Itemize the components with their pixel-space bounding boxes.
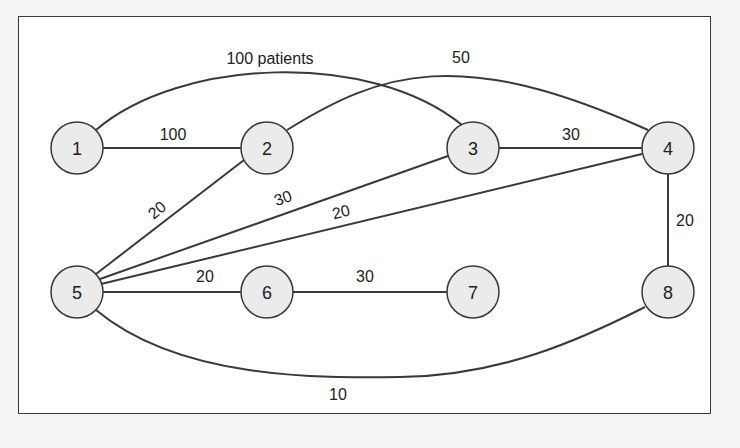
node-label-2: 2 bbox=[262, 139, 272, 159]
edge-label-5-3: 30 bbox=[272, 187, 295, 209]
node-1: 1 bbox=[51, 122, 103, 174]
edge-label-5-8: 10 bbox=[329, 386, 347, 403]
edge-5-4 bbox=[101, 154, 642, 284]
patient-flow-network: 100 patients 50 100 30 20 30 20 20 30 20… bbox=[0, 0, 740, 448]
edge-label-6-7: 30 bbox=[356, 268, 374, 285]
edge-label-5-4: 20 bbox=[330, 202, 351, 223]
edge-1-3 bbox=[96, 72, 462, 130]
edge-label-5-2: 20 bbox=[145, 198, 170, 223]
node-label-8: 8 bbox=[663, 283, 673, 303]
node-3: 3 bbox=[447, 122, 499, 174]
node-label-4: 4 bbox=[663, 139, 673, 159]
edge-5-8 bbox=[96, 307, 645, 377]
node-label-1: 1 bbox=[72, 139, 82, 159]
edge-label-4-8: 20 bbox=[676, 212, 694, 229]
edge-5-2 bbox=[96, 160, 244, 274]
node-7: 7 bbox=[447, 266, 499, 318]
node-4: 4 bbox=[642, 122, 694, 174]
node-label-5: 5 bbox=[72, 283, 82, 303]
edge-label-5-6: 20 bbox=[196, 268, 214, 285]
node-8: 8 bbox=[642, 266, 694, 318]
node-label-3: 3 bbox=[468, 139, 478, 159]
node-label-6: 6 bbox=[262, 283, 272, 303]
edge-label-3-4: 30 bbox=[562, 126, 580, 143]
edge-label-1-2: 100 bbox=[160, 126, 187, 143]
node-5: 5 bbox=[51, 266, 103, 318]
node-6: 6 bbox=[241, 266, 293, 318]
node-label-7: 7 bbox=[468, 283, 478, 303]
edge-label-2-4: 50 bbox=[452, 49, 470, 66]
edge-label-1-3: 100 patients bbox=[226, 50, 313, 67]
node-2: 2 bbox=[241, 122, 293, 174]
